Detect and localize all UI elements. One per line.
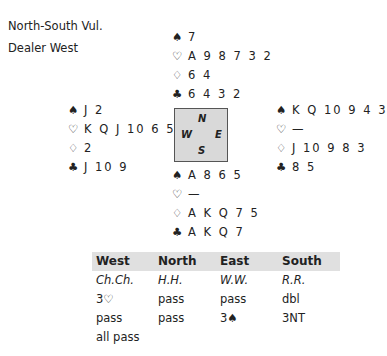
south-hearts: —: [188, 187, 202, 201]
auction-round: all pass: [92, 328, 340, 347]
spade-icon: ♠: [276, 101, 292, 120]
bid: all pass: [92, 328, 154, 347]
header-north: North: [154, 252, 216, 271]
heart-icon: ♡: [172, 185, 188, 204]
player-north: H.H.: [154, 271, 216, 290]
compass-n: N: [198, 113, 206, 124]
bid: 3♡: [92, 290, 154, 309]
compass-box: N W E S: [174, 108, 228, 162]
header-east: East: [216, 252, 278, 271]
dealer: Dealer West: [8, 37, 78, 59]
club-icon: ♣: [172, 223, 188, 242]
player-west: Ch.Ch.: [92, 271, 154, 290]
bid: pass: [154, 309, 216, 328]
south-diamonds: A K Q 7 5: [188, 206, 260, 220]
east-diamonds: J 10 9 8 3: [292, 141, 367, 155]
bid: pass: [216, 290, 278, 309]
bid: pass: [92, 309, 154, 328]
bid: 3NT: [278, 309, 340, 328]
auction-round: pass pass 3♠ 3NT: [92, 309, 340, 328]
diamond-icon: ♢: [68, 139, 84, 158]
compass-s: S: [198, 145, 205, 156]
north-clubs: 6 4 3 2: [188, 87, 242, 101]
west-spades: J 2: [84, 103, 104, 117]
heart-icon: ♡: [68, 120, 84, 139]
diamond-icon: ♢: [172, 66, 188, 85]
west-diamonds: 2: [84, 141, 93, 155]
south-clubs: A K Q 7: [188, 225, 245, 239]
player-east: W.W.: [216, 271, 278, 290]
east-clubs: 8 5: [292, 160, 316, 174]
bid: dbl: [278, 290, 340, 309]
spade-icon: ♠: [172, 166, 188, 185]
south-hand: ♠A 8 6 5 ♡— ♢A K Q 7 5 ♣A K Q 7: [172, 166, 260, 242]
spade-icon: ♠: [172, 28, 188, 47]
header-west: West: [92, 252, 154, 271]
players-row: Ch.Ch. H.H. W.W. R.R.: [92, 271, 340, 290]
diamond-icon: ♢: [276, 139, 292, 158]
west-clubs: J 10 9: [84, 160, 129, 174]
bid: [154, 328, 216, 347]
north-diamonds: 6 4: [188, 68, 212, 82]
north-hand: ♠7 ♡A 9 8 7 3 2 ♢6 4 ♣6 4 3 2: [172, 28, 273, 104]
north-hearts: A 9 8 7 3 2: [188, 49, 273, 63]
heart-icon: ♡: [172, 47, 188, 66]
bid: [278, 328, 340, 347]
auction-table: West North East South Ch.Ch. H.H. W.W. R…: [92, 252, 340, 347]
bid: pass: [154, 290, 216, 309]
auction-header: West North East South: [92, 252, 340, 271]
compass-w: W: [181, 129, 192, 140]
east-spades: K Q 10 9 4 3: [292, 103, 387, 117]
header-south: South: [278, 252, 340, 271]
compass-e: E: [215, 129, 222, 140]
club-icon: ♣: [276, 158, 292, 177]
vulnerability: North-South Vul.: [8, 15, 103, 37]
club-icon: ♣: [68, 158, 84, 177]
player-south: R.R.: [278, 271, 340, 290]
spade-icon: ♠: [68, 101, 84, 120]
auction-round: 3♡ pass pass dbl: [92, 290, 340, 309]
south-spades: A 8 6 5: [188, 168, 243, 182]
east-hand: ♠K Q 10 9 4 3 ♡— ♢J 10 9 8 3 ♣8 5: [276, 101, 387, 177]
heart-icon: ♡: [276, 120, 292, 139]
bid: 3♠: [216, 309, 278, 328]
bid: [216, 328, 278, 347]
east-hearts: —: [292, 122, 306, 136]
north-spades: 7: [188, 30, 197, 44]
diamond-icon: ♢: [172, 204, 188, 223]
